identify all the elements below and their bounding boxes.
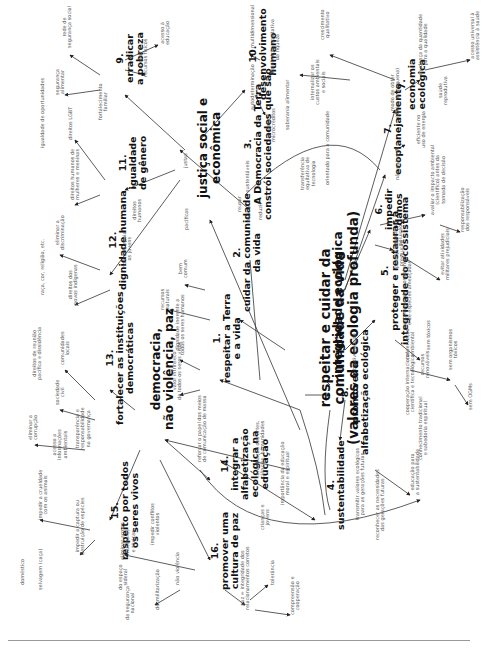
leaf-node: mudança da quantidade para a qualidade bbox=[418, 14, 429, 75]
leaf-node: justas bbox=[183, 153, 188, 168]
leaf-node: doméstico bbox=[20, 559, 25, 585]
leaf-node: sustentáveis bbox=[245, 160, 250, 192]
leaf-node: sociedade civil bbox=[55, 380, 66, 405]
leaf-node: fortalecimento familiar bbox=[98, 83, 109, 120]
leaf-node: evitar atividades militares prejudiciais bbox=[440, 228, 451, 280]
leaf-node: impedir a crueldade com os animais bbox=[38, 470, 49, 520]
leaf-node: reconhecer as necessidades das gerações … bbox=[375, 469, 386, 540]
leaf-node: comunidades locais bbox=[60, 332, 71, 366]
leaf-node: crianças e jovens bbox=[260, 504, 271, 530]
leaf-node: igualdade de oportunidades bbox=[40, 78, 45, 148]
leaf-node: raça, cor, religião, etc. bbox=[40, 239, 45, 295]
leaf-node: reforçar o papel dos meios de comunicaçã… bbox=[197, 395, 208, 462]
leaf-node: impedir a captura ou destruição de espéc… bbox=[75, 498, 86, 555]
leaf-node: pacíficas bbox=[184, 208, 189, 230]
leaf-node: internalizar os custos ambientais e soci… bbox=[310, 60, 326, 106]
leaf-node: recursos renováveis bbox=[420, 351, 431, 378]
leaf-node: direitos humanos bbox=[132, 199, 143, 222]
leaf-node: compreensão e cooperação bbox=[290, 576, 301, 615]
principle-node: 16. promover uma cultura de paz bbox=[210, 512, 240, 590]
leaf-node: valor intrínseco de todos os seres vivos bbox=[172, 342, 183, 400]
leaf-node: acesso a recursos físicos bbox=[138, 39, 149, 77]
leaf-node: sem tóxicos bbox=[426, 320, 431, 350]
leaf-node: educação para a sustentabilidade bbox=[410, 449, 421, 495]
leaf-node: distribuição equitativa da riqueza bbox=[270, 19, 281, 75]
leaf-node: orientado para a comunidade bbox=[325, 111, 330, 185]
leaf-node: eficiente no uso de energia bbox=[416, 111, 427, 148]
leaf-node: acesso à educação bbox=[160, 21, 171, 45]
leaf-node: acesso universal à assistência à saúde bbox=[470, 11, 481, 60]
leaf-node: selvagem (caça) bbox=[38, 549, 43, 590]
leaf-node: acesso a informações ambientais bbox=[52, 429, 68, 460]
leaf-node: biodiversidade bbox=[352, 333, 357, 370]
leaf-node: importância da educação moral e espiritu… bbox=[280, 442, 291, 505]
leaf-node: cooperação internacional científica e te… bbox=[405, 352, 416, 415]
leaf-node: segurança alimentar bbox=[55, 69, 66, 95]
leaf-node: transmitir valores ecológicos para as ge… bbox=[355, 448, 366, 520]
leaf-node: transparência e responsabilidade na gove… bbox=[75, 407, 91, 450]
leaf-node: sem organismos tóxicos bbox=[448, 329, 459, 370]
leaf-node: recursos naturais bbox=[160, 289, 171, 310]
leaf-node: saúde reprodutiva bbox=[438, 76, 449, 105]
pillar-node: justiça social e econômica bbox=[197, 98, 222, 198]
leaf-node: soberania alimentar bbox=[285, 80, 290, 130]
leaf-node: paz = integridade dos relacionamentos co… bbox=[240, 546, 251, 610]
leaf-node: recuperação de ecossistemas e de espécie… bbox=[402, 256, 413, 330]
leaf-node: direitos humanos de mulheres e meninas bbox=[70, 149, 81, 200]
leaf-node: sem OGMs bbox=[468, 383, 473, 410]
bottom-divider bbox=[8, 640, 470, 641]
leaf-node: direitos de reunião pacífica e dissidênc… bbox=[32, 327, 43, 380]
leaf-node: eliminar a discriminação bbox=[55, 215, 66, 250]
leaf-node: acesso e microcréditos bbox=[266, 108, 277, 142]
leaf-node: modo de obter (meios de pequena) bbox=[390, 68, 401, 118]
leaf-node: impedir conflitos violentos bbox=[150, 503, 161, 545]
leaf-node: honrar e apoiar os jovens bbox=[122, 229, 133, 268]
leaf-node: responsabilização dos responsáveis bbox=[460, 187, 471, 232]
leaf-node: multidimensional bbox=[250, 5, 255, 48]
leaf-node: reduzir bbox=[258, 203, 263, 220]
leaf-node: bem comum bbox=[178, 259, 189, 278]
leaf-node: reusar bbox=[237, 196, 242, 212]
leaf-node: reciclar bbox=[246, 204, 251, 222]
leaf-node: direitos dos povos indígenas bbox=[68, 264, 79, 305]
leaf-node: desmilitarização bbox=[155, 569, 160, 610]
leaf-node: não-poluente bbox=[395, 147, 400, 180]
leaf-node: da segurança nacional bbox=[125, 586, 136, 620]
leaf-node: rede de segurança social bbox=[62, 6, 73, 48]
leaf-node: crescimento qualitativo bbox=[320, 9, 331, 40]
leaf-node: autodeterminação bbox=[250, 64, 255, 110]
leaf-node: não violência bbox=[175, 552, 180, 585]
leaf-node: contribuição das artes, ciências, humani… bbox=[255, 421, 266, 478]
principle-node: 11. igualdade de gênero bbox=[118, 136, 148, 190]
leaf-node: transferência equitativa de tecnologia bbox=[300, 157, 316, 190]
principle-node: 13. fortalecer as instituições democráti… bbox=[105, 291, 135, 425]
leaf-node: direitos LGBT bbox=[68, 107, 73, 140]
leaf-node: eliminar armas nucleares e tóxicas bbox=[120, 522, 136, 560]
leaf-node: avaliar o impacto ambiental (cientifico)… bbox=[430, 145, 446, 215]
leaf-node: eliminar a corrupção bbox=[28, 415, 39, 440]
leaf-node: tolerância bbox=[270, 560, 275, 585]
